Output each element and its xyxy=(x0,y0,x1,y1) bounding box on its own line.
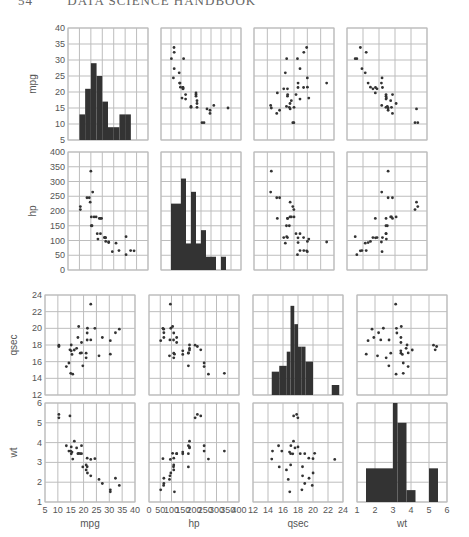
data-point xyxy=(284,71,287,74)
data-point xyxy=(178,71,181,74)
x-tick-label: 5 xyxy=(42,505,47,515)
data-point xyxy=(411,349,414,352)
data-point xyxy=(301,465,304,468)
data-point xyxy=(379,339,382,342)
histogram-bar xyxy=(411,490,416,502)
data-point xyxy=(385,224,388,227)
data-point xyxy=(118,484,121,487)
x-tick-label: 15 xyxy=(66,505,76,515)
y-tick-label: 400 xyxy=(50,147,65,157)
histogram-bar xyxy=(393,403,398,502)
data-point xyxy=(168,354,171,357)
data-point xyxy=(354,235,357,238)
histogram-bar xyxy=(302,347,306,395)
data-point xyxy=(333,458,336,461)
data-point xyxy=(275,196,278,199)
data-point xyxy=(303,482,306,485)
data-point xyxy=(194,416,197,419)
data-point xyxy=(276,92,279,95)
data-point xyxy=(172,465,175,468)
data-point xyxy=(199,348,202,351)
x-tick-label: 14 xyxy=(263,505,273,515)
data-point xyxy=(380,241,383,244)
data-point xyxy=(190,106,193,109)
panel-hp-vs-mpg: 050100150200250300350400hp xyxy=(27,147,148,275)
data-point xyxy=(109,490,112,493)
data-point xyxy=(289,463,292,466)
data-point xyxy=(80,452,83,455)
histogram-bar xyxy=(366,468,375,502)
data-point xyxy=(289,201,292,204)
data-point xyxy=(187,364,190,367)
y-tick-label: 18 xyxy=(32,340,42,350)
data-point xyxy=(89,303,92,306)
data-point xyxy=(381,236,384,239)
data-point xyxy=(80,444,83,447)
data-point xyxy=(195,92,198,95)
data-point xyxy=(169,327,172,330)
data-point xyxy=(175,336,178,339)
data-point xyxy=(381,86,384,89)
histogram-bar xyxy=(306,362,314,395)
data-point xyxy=(400,341,403,344)
data-point xyxy=(188,344,191,347)
data-point xyxy=(325,241,328,244)
data-point xyxy=(406,344,409,347)
data-point xyxy=(79,208,82,211)
histogram-bar xyxy=(97,76,103,140)
data-point xyxy=(434,348,437,351)
data-point xyxy=(369,86,372,89)
y-tick-label: 40 xyxy=(55,23,65,33)
histogram-bar xyxy=(384,468,393,502)
data-point xyxy=(203,450,206,453)
data-point xyxy=(109,339,112,342)
data-point xyxy=(307,97,310,100)
data-point xyxy=(372,87,375,90)
data-point xyxy=(77,336,80,339)
data-point xyxy=(98,354,101,357)
data-point xyxy=(89,201,92,204)
data-point xyxy=(435,345,438,348)
data-point xyxy=(385,93,388,96)
data-point xyxy=(65,444,68,447)
histogram-bar xyxy=(79,114,85,140)
panel-wt-vs-hp: 050100150200250300350400hp xyxy=(146,403,246,529)
data-point xyxy=(376,354,379,357)
data-point xyxy=(416,121,419,124)
data-point xyxy=(355,253,358,256)
scatterplot-matrix: 510152025303540mpg0501001502002503003504… xyxy=(0,0,469,537)
data-point xyxy=(369,240,372,243)
data-point xyxy=(285,469,288,472)
data-point xyxy=(89,474,92,477)
data-point xyxy=(80,352,83,355)
y-tick-label: 15 xyxy=(55,103,65,113)
data-point xyxy=(65,365,68,368)
data-point xyxy=(296,416,299,419)
data-point xyxy=(73,349,76,352)
y-tick-label: 10 xyxy=(55,119,65,129)
data-point xyxy=(400,325,403,328)
data-point xyxy=(207,458,210,461)
data-point xyxy=(291,452,294,455)
y-tick-label: 25 xyxy=(55,71,65,81)
data-point xyxy=(85,469,88,472)
data-point xyxy=(86,457,89,460)
data-point xyxy=(57,416,60,419)
data-point xyxy=(390,106,393,109)
data-point xyxy=(206,108,209,111)
data-point xyxy=(175,341,178,344)
data-point xyxy=(179,86,182,89)
data-point xyxy=(75,347,78,350)
data-point xyxy=(173,67,176,70)
data-point xyxy=(385,356,388,359)
panel-wt-vs-qsec: 12141618202224qsec xyxy=(248,403,348,529)
x-tick-label: 0 xyxy=(146,505,151,515)
data-point xyxy=(93,327,96,330)
data-point xyxy=(159,339,162,342)
data-point xyxy=(285,105,288,108)
data-point xyxy=(125,235,128,238)
x-tick-label: 12 xyxy=(248,505,258,515)
x-tick-label: 16 xyxy=(278,505,288,515)
data-point xyxy=(387,196,390,199)
data-point xyxy=(171,452,174,455)
